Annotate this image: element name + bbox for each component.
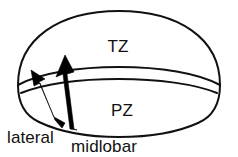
zone-label-pz: PZ [111,101,133,120]
callout-label-midlobar: midlobar [71,137,137,156]
diagram-canvas: TZ PZ lateral midlobar [0,0,238,157]
zone-label-tz: TZ [107,37,128,56]
callout-label-lateral: lateral [7,128,54,147]
prostate-zone-diagram: TZ PZ lateral midlobar [0,0,238,157]
